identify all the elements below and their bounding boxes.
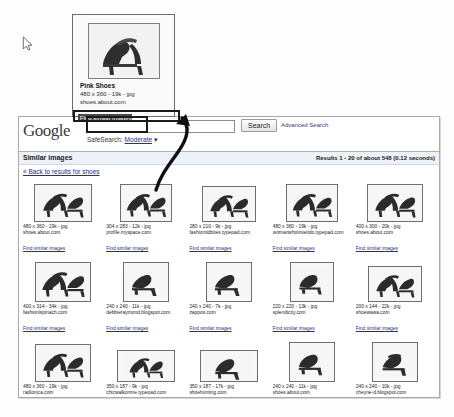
result-site: fashiontidbites.typepad.com <box>189 230 268 236</box>
hover-card-site: shoes.about.com <box>78 98 169 106</box>
find-similar-images-link[interactable]: Find similar images <box>356 326 398 332</box>
result-thumbnail[interactable] <box>206 262 252 302</box>
thumbnail-wrapper <box>189 259 268 302</box>
screenshot-root: Pink Shoes 480 x 360 - 19k - jpg shoes.a… <box>0 0 454 417</box>
result-cell: 480 x 360 - 19k - jpgwomanwholoveitdo.ty… <box>272 178 353 257</box>
similar-images-bar: Similar images Results 1 - 20 of about 5… <box>19 152 439 165</box>
thumbnail-wrapper <box>106 339 185 382</box>
advanced-search-link[interactable]: Advanced Search <box>281 122 328 128</box>
result-site: cheyne-d.blogspot.com <box>356 390 435 396</box>
result-site: zappos.com <box>189 310 268 316</box>
result-thumbnail[interactable] <box>368 266 422 302</box>
google-images-page: Google Search Advanced Search SafeSearch… <box>18 116 440 398</box>
result-thumbnail[interactable] <box>35 262 91 302</box>
result-cell: 200 x 144 - 22k - jpgshoewawa.comFind si… <box>355 258 436 337</box>
thumbnail-wrapper <box>23 179 102 222</box>
result-thumbnail[interactable] <box>367 184 423 222</box>
find-similar-images-link[interactable]: Find similar images <box>189 326 231 332</box>
find-similar-images-link[interactable]: Find similar images <box>356 246 398 252</box>
results-grid: 480 x 360 - 19k - jpgshoes.about.comFind… <box>19 177 439 398</box>
thumbnail-wrapper <box>23 339 102 382</box>
result-site: fashionispinach.com <box>23 310 102 316</box>
result-thumbnail[interactable] <box>286 184 338 222</box>
result-cell: 400 x 300 - 20k - jpgshoes.about.comFind… <box>355 178 436 257</box>
result-thumbnail[interactable] <box>290 262 334 302</box>
find-similar-images-link[interactable]: Find similar images <box>273 326 315 332</box>
result-cell: 480 x 360 - 19k - jpgshoes.about.comFind… <box>22 178 103 257</box>
result-cell: 350 x 187 - 17k - jpgshoehunting.comFind… <box>188 338 269 398</box>
annotation-curved-arrow <box>120 112 210 202</box>
find-similar-images-link[interactable]: Find similar images <box>273 246 315 252</box>
result-site: profile.myspace.com <box>106 230 185 236</box>
result-thumbnail[interactable] <box>117 350 175 382</box>
thumbnail-wrapper <box>273 339 352 382</box>
google-logo[interactable]: Google <box>23 121 70 141</box>
result-thumbnail[interactable] <box>35 344 91 382</box>
search-button[interactable]: Search <box>241 119 277 132</box>
result-cell: 240 x 240 - 11k - jpgshoes.about.comFind… <box>272 338 353 398</box>
result-site: shoes.about.com <box>356 230 435 236</box>
result-cell: 220 x 220 - 13k - jpgsplendicity.comFind… <box>272 258 353 337</box>
thumbnail-wrapper <box>23 259 102 302</box>
thumbnail-wrapper <box>356 259 435 302</box>
result-cell: 480 x 360 - 19k - jpgradionica.comFind s… <box>22 338 103 398</box>
result-cell: 350 x 187 - 9k - jpgchicwalkonme.typepad… <box>105 338 186 398</box>
find-similar-images-link[interactable]: Find similar images <box>189 246 231 252</box>
result-thumbnail[interactable] <box>372 342 418 382</box>
result-thumbnail[interactable] <box>123 262 169 302</box>
back-to-results-link[interactable]: « Back to results for shoes <box>19 165 439 177</box>
find-similar-images-link[interactable]: Find similar images <box>106 246 148 252</box>
hover-card-title: Pink Shoes <box>78 82 169 90</box>
result-cell: 240 x 240 - 11k - jpgdebbieraymond.blogs… <box>105 258 186 337</box>
results-count-label: Results 1 - 20 of about 548 (0.12 second… <box>316 155 435 161</box>
result-site: shoewawa.com <box>356 310 435 316</box>
result-site: radionica.com <box>23 390 102 396</box>
result-site: shoes.about.com <box>23 230 102 236</box>
find-similar-images-link[interactable]: Find similar images <box>23 326 65 332</box>
mouse-pointer-icon <box>22 36 34 51</box>
result-thumbnail[interactable] <box>202 186 256 222</box>
thumbnail-wrapper <box>273 179 352 222</box>
hover-card-thumbnail[interactable] <box>88 23 160 79</box>
result-site: shoehunting.com <box>189 390 268 396</box>
hover-card-dimensions: 480 x 360 - 19k - jpg <box>78 90 169 98</box>
result-cell: 240 x 240 - 7k - jpgzappos.comFind simil… <box>188 258 269 337</box>
thumbnail-wrapper <box>273 259 352 302</box>
result-site: debbieraymond.blogspot.com <box>106 310 185 316</box>
find-similar-images-link[interactable]: Find similar images <box>23 246 65 252</box>
result-site: splendicity.com <box>273 310 352 316</box>
thumbnail-wrapper <box>356 339 435 382</box>
result-site: chicwalkonme.typepad.com <box>106 390 185 396</box>
find-similar-images-link[interactable]: Find similar images <box>106 326 148 332</box>
image-hover-card: Pink Shoes 480 x 360 - 19k - jpg shoes.a… <box>72 14 175 117</box>
result-site: womanwholoveitdo.typepad.com <box>273 230 352 236</box>
thumbnail-wrapper <box>106 259 185 302</box>
similar-images-title: Similar images <box>23 154 72 161</box>
result-site: shoes.about.com <box>273 390 352 396</box>
result-thumbnail[interactable] <box>200 350 258 382</box>
result-cell: 400 x 314 - 34k - jpgfashionispinach.com… <box>22 258 103 337</box>
safesearch-label: SafeSearch: <box>87 136 123 143</box>
thumbnail-wrapper <box>356 179 435 222</box>
result-thumbnail[interactable] <box>289 342 335 382</box>
result-cell: 240 x 240 - 10k - jpgcheyne-d.blogspot.c… <box>355 338 436 398</box>
result-thumbnail[interactable] <box>34 184 92 222</box>
thumbnail-wrapper <box>189 339 268 382</box>
